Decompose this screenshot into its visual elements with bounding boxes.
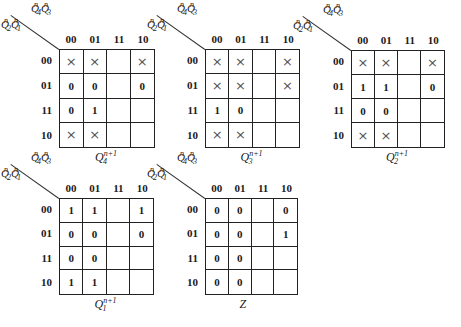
- dont-care-cell: ×: [206, 123, 229, 147]
- column-variables-label: Qn4Qn3: [323, 1, 343, 18]
- value-cell: 1: [375, 75, 398, 99]
- value-cell: 0: [130, 223, 153, 247]
- dont-care-cell: ×: [375, 51, 398, 75]
- value-cell: 0: [274, 199, 297, 223]
- column-header: 00: [351, 34, 375, 46]
- empty-cell: [107, 223, 130, 247]
- row-variables-label: Qn2Qn1: [147, 165, 167, 182]
- empty-cell: [274, 247, 297, 271]
- dont-care-cell: ×: [375, 123, 398, 147]
- dont-care-cell: ×: [352, 51, 375, 75]
- column-header: 10: [131, 33, 155, 45]
- value-cell: 1: [83, 199, 106, 223]
- var-subscript: 1: [17, 24, 21, 33]
- row-header: 10: [178, 129, 198, 141]
- value-cell: 0: [229, 270, 252, 294]
- row-header: 11: [32, 252, 52, 264]
- kmap-output-label: Qn+12: [386, 149, 398, 166]
- empty-cell: [421, 123, 444, 147]
- column-header: 00: [205, 33, 229, 45]
- dont-care-cell: ×: [60, 50, 84, 74]
- empty-cell: [274, 270, 297, 294]
- empty-cell: [253, 99, 276, 123]
- dont-care-cell: ×: [352, 123, 375, 147]
- value-cell: 0: [83, 247, 106, 271]
- row-header: 11: [324, 104, 344, 116]
- var-subscript: 3: [193, 8, 197, 17]
- empty-cell: [276, 123, 299, 147]
- column-header: 01: [229, 33, 253, 45]
- output-subscript: 2: [394, 157, 398, 166]
- kmap-grid: ××××××10××: [205, 49, 300, 148]
- empty-cell: [252, 247, 275, 271]
- value-cell: 0: [229, 99, 252, 123]
- value-cell: 0: [83, 223, 106, 247]
- dont-care-cell: ×: [60, 123, 84, 147]
- column-header: 10: [274, 182, 298, 194]
- var-subscript: 3: [47, 8, 51, 17]
- column-header: 10: [421, 34, 445, 46]
- value-cell: 0: [84, 74, 108, 98]
- empty-cell: [131, 123, 155, 147]
- dont-care-cell: ×: [84, 50, 108, 74]
- row-header: 00: [32, 203, 52, 215]
- output-variable: Q: [95, 297, 104, 311]
- value-cell: 0: [206, 270, 229, 294]
- value-cell: 1: [130, 199, 153, 223]
- empty-cell: [253, 50, 276, 74]
- empty-cell: [107, 270, 130, 294]
- column-header: 11: [106, 182, 130, 194]
- value-cell: 0: [206, 247, 229, 271]
- column-variables-label: Qn4Qn3: [31, 0, 51, 17]
- column-header: 11: [398, 34, 422, 46]
- var-subscript: 3: [47, 157, 51, 166]
- row-header: 00: [324, 55, 344, 67]
- value-cell: 0: [352, 99, 375, 123]
- empty-cell: [107, 74, 131, 98]
- value-cell: 0: [421, 75, 444, 99]
- column-header: 11: [251, 182, 275, 194]
- value-cell: 0: [60, 223, 83, 247]
- kmap-output-label: Qn+13: [241, 149, 253, 166]
- row-header: 01: [32, 227, 52, 239]
- empty-cell: [253, 74, 276, 98]
- row-header: 11: [32, 104, 52, 116]
- empty-cell: [252, 199, 275, 223]
- row-variables-label: Qn2Qn1: [147, 16, 167, 33]
- dont-care-cell: ×: [421, 51, 444, 75]
- column-header: 00: [59, 33, 83, 45]
- value-cell: 0: [229, 223, 252, 247]
- kmap-output-label: Qn+11: [95, 296, 107, 313]
- column-header: 01: [374, 34, 398, 46]
- value-cell: 1: [84, 99, 108, 123]
- var-subscript: 1: [309, 25, 313, 34]
- column-header: 00: [205, 182, 229, 194]
- kmap-output-label: Qn+14: [95, 149, 107, 166]
- value-cell: 1: [60, 199, 83, 223]
- row-variables-label: Qn2Qn1: [293, 17, 313, 34]
- value-cell: 0: [206, 223, 229, 247]
- column-header: 10: [276, 33, 300, 45]
- empty-cell: [107, 99, 131, 123]
- dont-care-cell: ×: [131, 50, 155, 74]
- row-variables-label: Qn2Qn1: [1, 16, 21, 33]
- column-variables-label: Qn4Qn3: [177, 0, 197, 17]
- value-cell: 0: [60, 99, 84, 123]
- empty-cell: [398, 123, 421, 147]
- row-header: 01: [178, 79, 198, 91]
- output-subscript: 1: [103, 304, 107, 313]
- output-subscript: 4: [103, 157, 107, 166]
- empty-cell: [421, 99, 444, 123]
- column-header: 10: [130, 182, 154, 194]
- empty-cell: [398, 51, 421, 75]
- column-header: 01: [83, 182, 107, 194]
- dont-care-cell: ×: [229, 123, 252, 147]
- empty-cell: [107, 247, 130, 271]
- value-cell: 0: [60, 247, 83, 271]
- dont-care-cell: ×: [229, 50, 252, 74]
- dont-care-cell: ×: [206, 74, 229, 98]
- row-header: 11: [178, 104, 198, 116]
- row-header: 01: [178, 227, 198, 239]
- empty-cell: [107, 123, 131, 147]
- row-header: 01: [324, 80, 344, 92]
